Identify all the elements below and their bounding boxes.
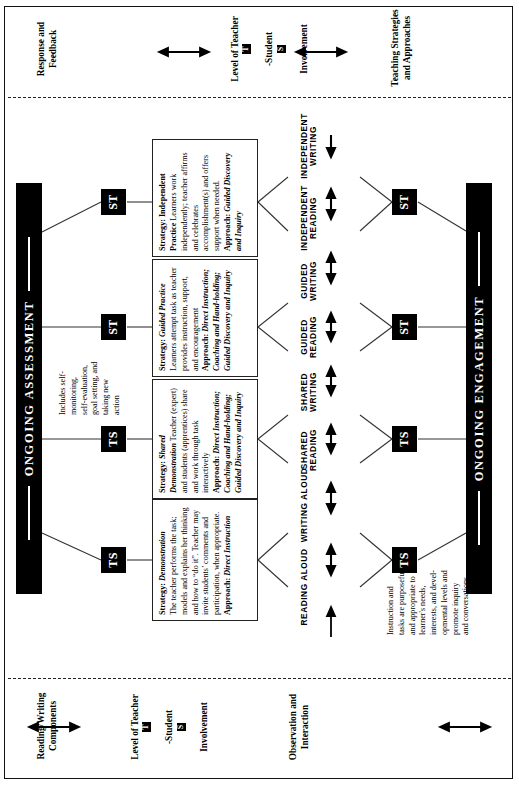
component-shared-writing: SHARED WRITING [300,363,319,421]
badge-bottom-2: TS [392,426,417,452]
caption-teaching-strategies: Teaching Strategies and Approaches [390,9,413,87]
banner-rule-right [28,237,30,291]
student-badge-right: S [277,45,286,53]
banner-rule-left-2 [478,491,480,545]
banner-rule-right-2 [478,232,480,286]
level-right-post: Involvement [299,24,309,74]
caption-response-feedback: Response and Feedback [36,11,59,87]
engagement-note: Instruction and tasks are purposeful and… [386,527,472,635]
strategy-label-2: Strategy: [158,461,167,493]
strategy-name-1: Demonstration [158,531,167,581]
badge-bottom-3: ST [392,314,417,340]
ongoing-engagement-label: ONGOING ENGAGEMENT [472,296,487,481]
student-badge-left: S [177,723,186,731]
banner-rule-left [28,486,30,540]
strategy-box-shared-demonstration: Strategy: Shared Demonstration Teacher (… [152,379,258,499]
strategy-label-4: Strategy: [158,219,167,251]
badge-top-3: ST [101,314,126,340]
level-left-pre: Level of Teacher [130,694,140,760]
caption-reading-writing-components: Reading/Writing Components [36,687,59,765]
approach-label-3: Approach: [201,334,210,371]
strategy-box-demonstration: Strategy: Demonstration The teacher perf… [152,499,258,621]
strategy-box-independent-practice: Strategy: Independent Practice Learners … [152,139,258,257]
level-right-mid: -Student [264,32,274,66]
teacher-badge-right: T [242,44,251,53]
component-shared-reading: SHARED READING [300,421,319,479]
approach-label-1: Approach: [223,578,232,615]
divider-bottom [8,97,511,98]
ongoing-assessment-label: ONGOING ASSESSMENT [22,301,37,477]
rotated-figure-canvas: ONGOING ASSESSMENT ONGOING ENGAGEMENT Re… [0,0,519,787]
strategy-body-3: Learners attempt task as teacher provide… [169,267,200,371]
strategy-box-guided-practice: Strategy: Guided Practice Learners attem… [152,259,258,377]
badge-bottom-4: ST [392,189,417,215]
badge-top-2: TS [101,426,126,452]
approach-label-4: Approach: [223,214,232,251]
strategy-label-3: Strategy: [158,339,167,371]
component-guided-writing: GUIDED WRITING [300,253,319,309]
strategy-name-3: Guided Practice [158,283,167,337]
level-right-pre: Level of Teacher [230,16,240,82]
badge-bottom-1: TS [392,547,417,573]
badge-top-1: TS [101,547,126,573]
strategy-label-1: Strategy: [158,583,167,615]
caption-level-right: Level of Teacher T -Student S Involvemen… [218,9,311,89]
caption-observation-interaction: Observation and Interaction [288,687,311,767]
approach-label-2: Approach: [212,456,221,493]
strategy-body-1: The teacher performs the task; models an… [169,508,221,615]
approach-text-1: Direct Instruction [223,516,232,576]
figure-root: ONGOING ASSESSMENT ONGOING ENGAGEMENT Re… [0,0,519,787]
component-independent-writing: INDEPENDENT WRITING [300,109,319,183]
component-reading-aloud: READING ALOUD [300,547,309,627]
level-left-mid: -Student [164,710,174,744]
level-left-post: Involvement [199,702,209,752]
caption-level-left: Level of Teacher T -Student S Involvemen… [118,685,211,769]
component-independent-reading: INDEPENDENT READING [300,181,319,255]
badge-top-4: ST [101,189,126,215]
component-guided-reading: GUIDED READING [300,309,319,365]
divider-top [8,678,511,679]
diagram-canvas: ONGOING ASSESSMENT ONGOING ENGAGEMENT Re… [0,0,519,787]
teacher-badge-left: T [142,722,151,731]
ongoing-assessment-banner: ONGOING ASSESSMENT [16,183,42,594]
